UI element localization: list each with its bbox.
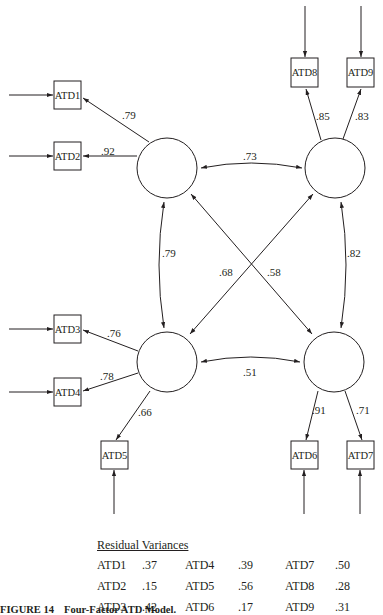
factor-f1 — [137, 138, 197, 198]
residual-variances-title: Residual Variances — [97, 538, 188, 553]
svg-text:ATD2: ATD2 — [55, 151, 81, 162]
factor-f2 — [305, 138, 365, 198]
factor-f3 — [137, 332, 197, 392]
indicator-atd4: ATD4 — [54, 378, 81, 406]
residual-row: ATD1 .37 ATD4 .39 ATD7 .50 — [97, 558, 377, 574]
correlation-f2-f4 — [341, 202, 346, 328]
correlation-label-f1-f4: .58 — [267, 266, 281, 278]
residual-row: ATD2 .15 ATD5 .56 ATD8 .28 — [97, 579, 377, 595]
loading-label-atd8: .85 — [316, 110, 330, 122]
svg-text:ATD8: ATD8 — [292, 67, 318, 78]
loading-label-atd3: .76 — [107, 327, 121, 339]
figure-number: FIGURE 14 — [0, 604, 54, 615]
correlation-f3-f4 — [201, 357, 300, 362]
residual-name: ATD2 — [97, 579, 126, 594]
indicator-atd9: ATD9 — [347, 58, 374, 87]
indicator-atd6: ATD6 — [291, 441, 318, 469]
residual-value: .15 — [142, 579, 157, 594]
loading-label-atd9: .83 — [355, 110, 369, 122]
four-factor-path-diagram: ATD1 ATD2 ATD3 ATD4 ATD5 ATD6 ATD7 ATD8 — [0, 0, 383, 530]
residual-name: ATD1 — [97, 558, 126, 573]
figure-caption: FIGURE 14Four-Factor ATD Model. — [0, 604, 176, 615]
residual-name: ATD5 — [185, 579, 214, 594]
residual-value: .56 — [238, 579, 253, 594]
residual-value: .37 — [142, 558, 157, 573]
residual-name: ATD7 — [285, 558, 314, 573]
loading-label-atd4: .78 — [100, 370, 114, 382]
residual-name: ATD4 — [185, 558, 214, 573]
correlation-label-f3-f4: .51 — [243, 366, 257, 378]
residual-value: .50 — [335, 558, 350, 573]
correlation-label-f2-f3: .68 — [219, 266, 233, 278]
residual-value: .39 — [238, 558, 253, 573]
correlation-f1-f3 — [159, 202, 164, 328]
indicator-atd5: ATD5 — [101, 441, 128, 469]
residual-name: ATD8 — [285, 579, 314, 594]
loading-label-atd7: .71 — [356, 404, 370, 416]
svg-text:ATD1: ATD1 — [55, 90, 81, 101]
indicator-atd7: ATD7 — [347, 441, 374, 469]
indicator-atd1: ATD1 — [54, 81, 81, 109]
correlation-label-f2-f4: .82 — [347, 247, 361, 259]
svg-text:ATD4: ATD4 — [55, 387, 81, 398]
residual-name: ATD9 — [285, 600, 314, 615]
indicator-atd3: ATD3 — [54, 315, 81, 343]
figure-title: Four-Factor ATD Model. — [64, 604, 176, 615]
residual-value: .17 — [238, 600, 253, 615]
loading-label-atd2: .92 — [101, 145, 115, 157]
correlation-f1-f2 — [201, 163, 302, 168]
svg-text:ATD3: ATD3 — [55, 324, 81, 335]
loading-arrow-atd1 — [83, 98, 149, 142]
residual-name: ATD6 — [185, 600, 214, 615]
svg-text:ATD6: ATD6 — [292, 450, 318, 461]
svg-text:ATD7: ATD7 — [348, 450, 374, 461]
residual-value: .31 — [335, 600, 350, 615]
svg-text:ATD9: ATD9 — [348, 67, 374, 78]
loading-label-atd5: .66 — [138, 406, 152, 418]
indicator-atd8: ATD8 — [291, 58, 318, 87]
residual-value: .28 — [335, 579, 350, 594]
loading-label-atd6: .91 — [312, 404, 326, 416]
correlation-f1-f4 — [191, 194, 312, 334]
correlation-label-f1-f3: .79 — [162, 247, 176, 259]
svg-text:ATD5: ATD5 — [102, 450, 128, 461]
factor-f4 — [304, 332, 364, 392]
correlation-label-f1-f2: .73 — [243, 150, 257, 162]
indicator-atd2: ATD2 — [54, 142, 81, 170]
loading-label-atd1: .79 — [122, 109, 136, 121]
